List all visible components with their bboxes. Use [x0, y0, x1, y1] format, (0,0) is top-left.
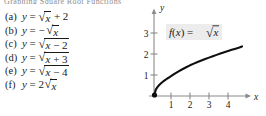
- x-tick-label-4: 4: [226, 100, 231, 110]
- radical-expression: √x − 4: [39, 64, 69, 76]
- equation-lhs: y: [22, 64, 29, 76]
- equation-label: (c): [5, 38, 22, 49]
- x-tick-label-2: 2: [188, 100, 193, 110]
- textbook-figure: Graphing Square Root Functions (a)y=√x+ …: [0, 0, 266, 116]
- equation-label: (a): [5, 11, 22, 22]
- equals-sign: =: [29, 37, 38, 49]
- clipped-heading-artifact: Graphing Square Root Functions: [4, 0, 124, 4]
- equation-lhs: y: [22, 51, 29, 63]
- equation-row: (e)y=√x − 4: [5, 64, 129, 78]
- y-tick-label-2: 2: [144, 50, 149, 60]
- radical-expression: √x: [46, 24, 59, 36]
- equation-lhs: y: [22, 37, 29, 49]
- sqrt-curve: [154, 46, 242, 96]
- y-axis-arrow: [152, 9, 157, 15]
- y-tick-label-1: 1: [144, 71, 149, 81]
- equation-lhs: y: [22, 10, 29, 22]
- function-label-radicand: x: [213, 26, 219, 38]
- equals-sign: =: [29, 51, 38, 63]
- y-axis-label: y: [159, 3, 165, 13]
- equation-label: (e): [5, 65, 22, 76]
- radicand: x − 2: [44, 38, 68, 50]
- x-tick-label-3: 3: [207, 100, 212, 110]
- radicand: x: [52, 25, 59, 37]
- equation-row: (b)y=−√x: [5, 24, 129, 38]
- equation-rhs: √x − 4: [39, 64, 69, 76]
- radical-expression: √x − 2: [39, 37, 69, 49]
- radicand: x: [44, 11, 51, 23]
- equation-lhs: y: [22, 78, 29, 90]
- equation-rhs: √x − 2: [39, 37, 69, 49]
- equation-label: (f): [5, 79, 22, 90]
- radicand: x + 3: [44, 52, 68, 64]
- equals-sign: =: [29, 24, 38, 36]
- equation-lhs: y: [22, 24, 29, 36]
- equation-rhs: −√x: [39, 24, 59, 36]
- origin-point-dot: [152, 92, 157, 97]
- equation-row: (a)y=√x+ 2: [5, 10, 129, 24]
- equation-list: (a)y=√x+ 2(b)y=−√x(c)y=√x − 2(d)y=√x + 3…: [5, 10, 129, 91]
- graph-panel: 1 2 3 4 1 2 3 y x f(x) = √ x: [133, 0, 266, 116]
- function-label: f(x) =: [169, 26, 193, 39]
- equation-label: (d): [5, 52, 22, 63]
- equation-row: (c)y=√x − 2: [5, 37, 129, 51]
- negation-sign: −: [39, 24, 47, 36]
- equation-rhs: 2√x: [39, 78, 58, 90]
- equals-sign: =: [29, 64, 38, 76]
- x-axis-arrow: [246, 94, 252, 99]
- equation-rhs: √x + 3: [39, 51, 69, 63]
- equation-row: (d)y=√x + 3: [5, 51, 129, 65]
- radicand: x − 4: [44, 65, 68, 77]
- radical-expression: √x: [45, 78, 58, 90]
- equals-sign: =: [29, 78, 38, 90]
- equation-rhs: √x+ 2: [39, 10, 69, 22]
- radical-expression: √x + 3: [39, 51, 69, 63]
- sqrt-function-plot: 1 2 3 4 1 2 3 y x f(x) = √ x: [133, 0, 266, 116]
- equation-tail-term: + 2: [51, 10, 68, 22]
- radicand: x: [50, 79, 57, 91]
- x-tick-label-1: 1: [169, 100, 174, 110]
- equals-sign: =: [29, 10, 38, 22]
- radical-expression: √x: [39, 10, 52, 22]
- y-tick-label-3: 3: [144, 29, 149, 39]
- equation-row: (f)y=2√x: [5, 78, 129, 92]
- x-axis-label: x: [253, 92, 259, 102]
- equation-label: (b): [5, 25, 22, 36]
